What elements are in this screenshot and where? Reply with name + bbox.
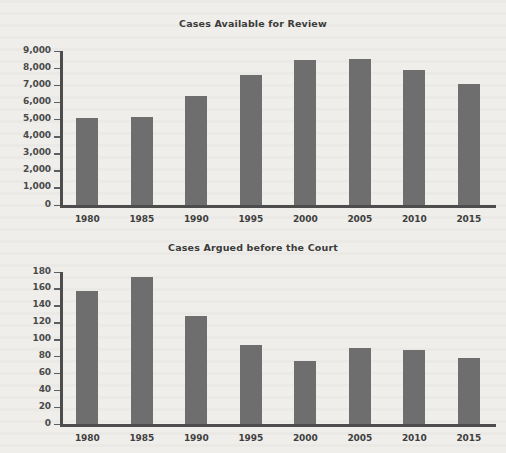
bar (131, 277, 153, 424)
y-axis-tick-mark (54, 205, 60, 207)
x-axis-tick-label: 1995 (223, 214, 279, 224)
y-axis-tick-label: 8,000 (23, 62, 51, 72)
bar (185, 96, 207, 205)
y-axis-tick-mark (54, 170, 60, 172)
y-axis-tick-label: 180 (33, 266, 52, 276)
y-axis-tick-mark (54, 390, 60, 392)
y-axis-tick-label: 0 (45, 199, 51, 209)
plot-area: 01,0002,0003,0004,0005,0006,0007,0008,00… (0, 18, 506, 230)
x-axis-tick-label: 2010 (386, 214, 442, 224)
y-axis-line (60, 51, 63, 208)
bar (240, 75, 262, 205)
x-axis-tick-label: 2015 (441, 214, 497, 224)
y-axis-tick-mark (54, 407, 60, 409)
bar (458, 84, 480, 205)
x-axis-line (60, 424, 496, 427)
y-axis-tick-label: 100 (33, 333, 52, 343)
y-axis-tick-mark (54, 51, 60, 53)
y-axis-tick-label: 20 (39, 401, 51, 411)
x-axis-tick-label: 1985 (114, 214, 170, 224)
bar (294, 361, 316, 424)
x-axis-tick-label: 2000 (277, 214, 333, 224)
x-axis-tick-label: 1980 (59, 214, 115, 224)
bar (349, 348, 371, 424)
chart-cases-argued-before-the-court: Cases Argued before the Court 0204060801… (0, 242, 506, 447)
y-axis-tick-mark (54, 305, 60, 307)
y-axis-tick-label: 1,000 (23, 181, 51, 191)
bar (185, 316, 207, 424)
y-axis-tick-mark (54, 85, 60, 87)
y-axis-tick-label: 120 (33, 316, 52, 326)
y-axis-tick-label: 6,000 (23, 96, 51, 106)
bar (349, 59, 371, 205)
y-axis-tick-mark (54, 272, 60, 274)
bar (240, 345, 262, 424)
bar (294, 60, 316, 205)
y-axis-tick-mark (54, 339, 60, 341)
x-axis-tick-label: 2005 (332, 433, 388, 443)
x-axis-line (60, 205, 496, 208)
x-axis-tick-label: 1990 (168, 433, 224, 443)
bar (76, 291, 98, 424)
y-axis-tick-label: 140 (33, 299, 52, 309)
x-axis-tick-label: 1980 (59, 433, 115, 443)
chart-figure: Cases Available for Review 01,0002,0003,… (0, 0, 506, 453)
y-axis-tick-mark (54, 322, 60, 324)
y-axis-tick-label: 40 (39, 384, 51, 394)
y-axis-tick-label: 80 (39, 350, 51, 360)
y-axis-tick-label: 9,000 (23, 45, 51, 55)
bar (131, 117, 153, 205)
y-axis-tick-label: 60 (39, 367, 51, 377)
y-axis-line (60, 272, 63, 427)
y-axis-tick-label: 5,000 (23, 113, 51, 123)
y-axis-tick-mark (54, 136, 60, 138)
y-axis-tick-mark (54, 187, 60, 189)
plot-area: 0204060801001201401601801980198519901995… (0, 242, 506, 447)
x-axis-tick-label: 2005 (332, 214, 388, 224)
y-axis-tick-mark (54, 102, 60, 104)
x-axis-tick-label: 1990 (168, 214, 224, 224)
y-axis-tick-label: 160 (33, 282, 52, 292)
bar (76, 118, 98, 205)
bar (403, 350, 425, 424)
y-axis-tick-mark (54, 119, 60, 121)
bar (458, 358, 480, 424)
x-axis-tick-label: 2015 (441, 433, 497, 443)
x-axis-tick-label: 2000 (277, 433, 333, 443)
y-axis-tick-mark (54, 373, 60, 375)
y-axis-tick-label: 7,000 (23, 79, 51, 89)
x-axis-tick-label: 1995 (223, 433, 279, 443)
y-axis-tick-label: 0 (45, 418, 51, 428)
chart-cases-available-for-review: Cases Available for Review 01,0002,0003,… (0, 18, 506, 230)
y-axis-tick-label: 3,000 (23, 147, 51, 157)
x-axis-tick-label: 1985 (114, 433, 170, 443)
y-axis-tick-mark (54, 288, 60, 290)
y-axis-tick-mark (54, 356, 60, 358)
bar (403, 70, 425, 205)
x-axis-tick-label: 2010 (386, 433, 442, 443)
y-axis-tick-label: 2,000 (23, 164, 51, 174)
y-axis-tick-label: 4,000 (23, 130, 51, 140)
y-axis-tick-mark (54, 68, 60, 70)
y-axis-tick-mark (54, 153, 60, 155)
y-axis-tick-mark (54, 424, 60, 426)
